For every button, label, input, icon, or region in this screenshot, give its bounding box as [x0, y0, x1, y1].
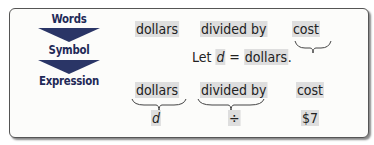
words-dollars: dollars	[135, 21, 179, 37]
down-arrow-icon	[38, 60, 100, 74]
symbol-statement: Let d = dollars.	[192, 49, 292, 65]
down-arrow-icon	[38, 28, 100, 42]
period: .	[288, 49, 292, 65]
symbol-dollars: dollars	[244, 49, 288, 65]
expression-var-d: d	[151, 110, 161, 126]
label-expression: Expression	[31, 74, 108, 88]
brace-icon	[293, 39, 333, 55]
expression-cost-value: $7	[301, 110, 319, 126]
variable-d: d	[215, 49, 225, 65]
let-text: Let	[192, 49, 211, 65]
words-cost: cost	[292, 21, 320, 37]
expression-divide-sign: ÷	[228, 110, 240, 126]
expression-divided-by: divided by	[200, 82, 267, 98]
expression-dollars: dollars	[135, 82, 179, 98]
expression-cost: cost	[296, 82, 324, 98]
words-symbol-expression-panel: Words Symbol Expression dollars divided …	[9, 8, 369, 138]
label-symbol: Symbol	[31, 43, 108, 57]
label-words: Words	[31, 12, 108, 26]
words-divided-by: divided by	[200, 21, 267, 37]
equals-sign: =	[229, 49, 240, 65]
